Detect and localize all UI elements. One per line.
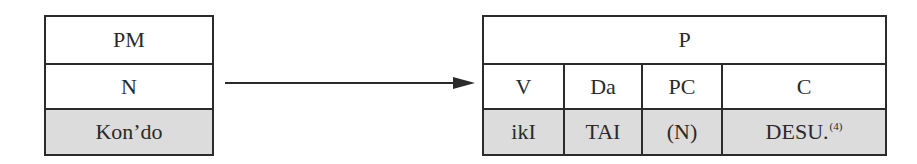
word-n-paren: (N)	[641, 110, 721, 154]
word-desu-cell: DESU.(4)	[721, 110, 885, 154]
right-category-row: V Da PC C	[484, 65, 885, 108]
label-pc: PC	[641, 65, 721, 108]
label-n: N	[46, 65, 212, 108]
right-header-row: P	[484, 17, 885, 63]
left-row-n: N	[46, 65, 212, 108]
label-c: C	[721, 65, 885, 108]
word-tai: TAI	[563, 110, 641, 154]
left-row-word: Kon’do	[46, 110, 212, 154]
arrow-right-icon	[225, 77, 475, 89]
label-v: V	[484, 65, 563, 108]
word-desu: DESU.	[766, 119, 829, 145]
left-structure-box: PM N Kon’do	[44, 15, 214, 156]
label-pm: PM	[46, 17, 212, 63]
word-iki: ikI	[484, 110, 563, 154]
footnote-marker: (4)	[830, 120, 843, 132]
word-kondo: Kon’do	[46, 110, 212, 154]
left-row-pm: PM	[46, 17, 212, 63]
label-p: P	[484, 17, 885, 63]
right-value-row: ikI TAI (N) DESU.(4)	[484, 110, 885, 154]
label-da: Da	[563, 65, 641, 108]
right-structure-box: P V Da PC C ikI TAI (N) DESU.(4)	[482, 15, 887, 156]
